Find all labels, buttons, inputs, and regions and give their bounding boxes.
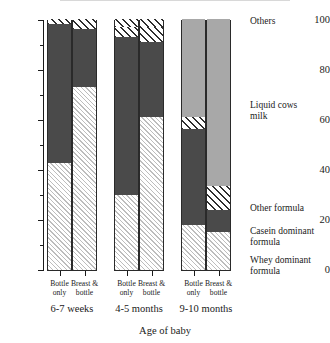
bar-segment-other [115, 27, 138, 37]
bar-segment-casein [73, 29, 96, 87]
y-tick-minor-70 [40, 95, 43, 96]
y-tick-label-40: 40 [294, 165, 330, 176]
bar-segment-whey [207, 232, 230, 270]
group-label: 6-7 weeks [34, 303, 110, 314]
bar-segment-liquid [182, 19, 205, 117]
x-tick [127, 271, 128, 276]
legend-whey: Whey dominant formula [250, 255, 311, 276]
stacked-bar [72, 20, 97, 271]
bar-segment-whey [115, 195, 138, 270]
bar-segment-casein [48, 24, 71, 163]
bar-segment-whey [140, 117, 163, 270]
stacked-bar [139, 20, 164, 271]
bar-segment-other [207, 186, 230, 210]
y-tick-80 [38, 70, 43, 71]
legend-others: Others [250, 16, 275, 27]
y-tick-minor-50 [40, 145, 43, 146]
bar-segment-casein [140, 42, 163, 117]
bar-segment-others [140, 19, 163, 27]
group-label: 9-10 months [168, 303, 244, 314]
bar-segment-other [140, 27, 163, 42]
bar-segment-casein [207, 210, 230, 233]
bar-label: Breast & bottle [63, 279, 107, 297]
x-axis-title: Age of baby [0, 325, 330, 336]
stacked-bar [206, 20, 231, 271]
legend-casein: Casein dominant formula [250, 226, 314, 247]
x-tick [219, 271, 220, 276]
y-tick-label-80: 80 [294, 65, 330, 76]
y-tick-20 [38, 220, 43, 221]
legend-other-formula: Other formula [250, 203, 304, 214]
y-tick-label-100: 100 [294, 15, 330, 26]
x-tick [60, 271, 61, 276]
legend-liquid-cows: Liquid cows milk [250, 100, 297, 121]
bar-label: Breast & bottle [130, 279, 174, 297]
y-tick-label-60: 60 [294, 115, 330, 126]
y-tick-minor-30 [40, 195, 43, 196]
y-tick-minor-90 [40, 45, 43, 46]
chart-figure: % giving each type of milk 100 80 60 40 … [0, 0, 330, 343]
x-tick [194, 271, 195, 276]
bar-segment-casein [115, 37, 138, 195]
bar-segment-other [182, 117, 205, 130]
bar-segment-whey [182, 225, 205, 270]
bars-plot-area [44, 20, 244, 271]
bar-segment-liquid [207, 19, 230, 186]
bar-segment-whey [48, 163, 71, 270]
stacked-bar [114, 20, 139, 271]
bar-segment-others [48, 19, 71, 24]
stacked-bar [47, 20, 72, 271]
y-tick-100 [38, 20, 43, 21]
x-tick [152, 271, 153, 276]
stacked-bar [181, 20, 206, 271]
bar-segment-whey [73, 87, 96, 270]
x-tick [85, 271, 86, 276]
y-tick-minor-10 [40, 245, 43, 246]
bar-segment-casein [182, 129, 205, 224]
bar-segment-others [115, 19, 138, 27]
y-tick-0 [38, 270, 43, 271]
bar-segment-others [73, 19, 96, 29]
bar-label: Breast & bottle [197, 279, 241, 297]
top-rule [60, 0, 290, 1]
y-tick-label-20: 20 [294, 215, 330, 226]
y-tick-60 [38, 120, 43, 121]
y-tick-40 [38, 170, 43, 171]
group-label: 4-5 months [101, 303, 177, 314]
